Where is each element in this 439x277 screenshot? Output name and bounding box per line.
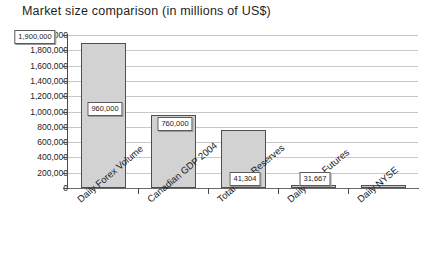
y-axis-tick-label: 1,400,000 [6, 76, 68, 86]
gridline [68, 35, 418, 36]
bar-value-label: 31,667 [300, 172, 331, 186]
x-axis-separator [208, 188, 209, 194]
bar-value-label: 760,000 [157, 117, 192, 131]
y-axis-tick-label: 1,000,000 [6, 107, 68, 117]
y-axis-tick-label: 800,000 [6, 122, 68, 132]
bar-chart: Market size comparison (in millions of U… [0, 0, 439, 277]
y-axis-tick-label: 1,800,000 [6, 45, 68, 55]
x-axis-separator [138, 188, 139, 194]
bar-value-label: 41,304 [230, 172, 261, 186]
bar-value-label: 1,900,000 [14, 30, 55, 44]
y-axis-tick-label: 1,200,000 [6, 91, 68, 101]
y-axis-tick-label: 0 [6, 183, 68, 193]
y-axis-tick-label: 400,000 [6, 152, 68, 162]
x-axis-separator [278, 188, 279, 194]
x-axis-separator [348, 188, 349, 194]
y-axis-tick-label: 1,600,000 [6, 61, 68, 71]
bar-value-label: 960,000 [87, 102, 122, 116]
y-axis-tick-label: 600,000 [6, 137, 68, 147]
y-axis-tick-label: 200,000 [6, 168, 68, 178]
